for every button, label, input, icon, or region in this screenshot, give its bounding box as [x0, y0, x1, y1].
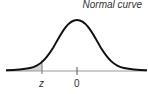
- zero-label: 0: [74, 79, 80, 89]
- normal-curve: [6, 20, 147, 70]
- z-label: z: [39, 79, 44, 89]
